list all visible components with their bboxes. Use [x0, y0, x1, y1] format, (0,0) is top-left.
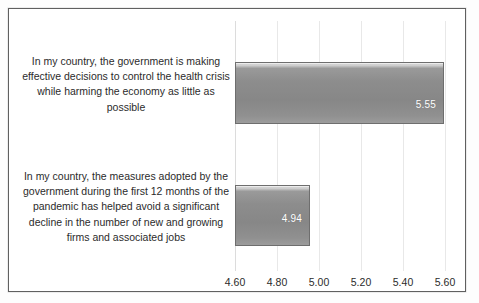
- gridline-5-40: [403, 21, 404, 271]
- plot-area: 5.55 4.94 4.60 4.80 5.00 5.20 5.40 5.60: [235, 21, 455, 271]
- bar-value-label-0: 5.55: [416, 99, 436, 110]
- bar-1[interactable]: 4.94: [235, 185, 310, 246]
- category-label-0: In my country, the government is making …: [21, 54, 231, 115]
- xtick-label-5: 5.60: [421, 276, 469, 288]
- gridline-5-00: [319, 21, 320, 271]
- gridline-5-60: [445, 21, 446, 271]
- xtick-label-1: 4.80: [253, 276, 301, 288]
- gridline-5-20: [361, 21, 362, 271]
- bar-0[interactable]: 5.55: [235, 62, 444, 124]
- xtick-label-0: 4.60: [211, 276, 259, 288]
- xtick-label-4: 5.40: [379, 276, 427, 288]
- chart-frame: In my country, the government is making …: [8, 8, 466, 292]
- bar-value-label-1: 4.94: [282, 213, 302, 224]
- chart-page: In my country, the government is making …: [0, 0, 479, 303]
- category-label-1: In my country, the measures adopted by t…: [21, 169, 231, 245]
- xtick-label-3: 5.20: [337, 276, 385, 288]
- xtick-label-2: 5.00: [295, 276, 343, 288]
